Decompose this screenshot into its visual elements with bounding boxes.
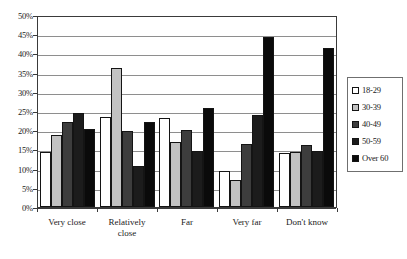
bar[interactable]	[241, 144, 252, 207]
bar-slot	[40, 17, 95, 207]
x-axis-category-labels: Very closeRelatively closeFarVery farDon…	[37, 213, 337, 257]
x-axis-separator-tick	[337, 208, 338, 212]
bar[interactable]	[312, 151, 323, 207]
y-axis-tick-label: 50%	[18, 12, 33, 21]
y-axis-tick-label: 45%	[18, 31, 33, 40]
legend-swatch-icon	[352, 138, 359, 145]
legend-label: 50-59	[362, 137, 381, 146]
bar-group	[98, 17, 158, 207]
y-axis-tick-label: 15%	[18, 146, 33, 155]
x-axis-separator-tick	[217, 208, 218, 212]
bar-slot	[100, 17, 155, 207]
bar[interactable]	[73, 113, 84, 207]
bar-group	[276, 17, 336, 207]
bar-slot	[159, 17, 214, 207]
bar[interactable]	[100, 117, 111, 207]
bar[interactable]	[51, 135, 62, 207]
legend-item[interactable]: 18-29	[352, 82, 399, 99]
bar[interactable]	[219, 171, 230, 207]
x-axis-separator-tick	[97, 208, 98, 212]
bar[interactable]	[122, 131, 133, 207]
legend-item[interactable]: Over 60	[352, 150, 399, 167]
bar[interactable]	[252, 115, 263, 207]
legend-swatch-icon	[352, 87, 359, 94]
x-axis-category-label: Don't know	[277, 213, 337, 257]
x-axis-separator-tick	[37, 208, 38, 212]
y-axis-tick-label: 20%	[18, 127, 33, 136]
y-axis-tick-label: 10%	[18, 165, 33, 174]
bar[interactable]	[301, 145, 312, 207]
x-axis-separator-tick	[157, 208, 158, 212]
x-axis-category-label: Very close	[37, 213, 97, 257]
bar-group	[38, 17, 98, 207]
legend-label: 18-29	[362, 86, 381, 95]
bar[interactable]	[62, 122, 73, 207]
y-axis-tick-label: 25%	[18, 108, 33, 117]
x-axis-category-label: Relatively close	[97, 213, 157, 257]
bar-group	[157, 17, 217, 207]
x-axis-tick-marks	[37, 208, 337, 212]
bar[interactable]	[323, 48, 334, 207]
bar[interactable]	[159, 118, 170, 207]
legend-label: Over 60	[362, 154, 388, 163]
legend-item[interactable]: 30-39	[352, 99, 399, 116]
bar-group	[217, 17, 277, 207]
bar[interactable]	[133, 166, 144, 207]
y-axis-tick-label: 35%	[18, 69, 33, 78]
legend-item[interactable]: 50-59	[352, 133, 399, 150]
bar-groups	[38, 17, 336, 207]
bar[interactable]	[181, 130, 192, 207]
bar[interactable]	[230, 180, 241, 207]
bar[interactable]	[144, 122, 155, 207]
bar-chart: 0%5%10%15%20%25%30%35%40%45%50% Very clo…	[0, 0, 407, 259]
legend-label: 30-39	[362, 103, 381, 112]
bar[interactable]	[111, 68, 122, 207]
bar-slot	[219, 17, 274, 207]
bar[interactable]	[192, 151, 203, 207]
x-axis-separator-tick	[277, 208, 278, 212]
legend-label: 40-49	[362, 120, 381, 129]
legend: 18-2930-3940-4950-59Over 60	[347, 77, 403, 172]
bar[interactable]	[170, 142, 181, 207]
legend-swatch-icon	[352, 104, 359, 111]
plot-area	[37, 16, 337, 208]
x-axis-category-label: Far	[157, 213, 217, 257]
bar[interactable]	[290, 152, 301, 207]
y-axis-tick-labels: 0%5%10%15%20%25%30%35%40%45%50%	[0, 16, 36, 208]
legend-swatch-icon	[352, 155, 359, 162]
bar[interactable]	[203, 108, 214, 207]
bar[interactable]	[84, 129, 95, 207]
y-axis-tick-label: 30%	[18, 89, 33, 98]
bar[interactable]	[263, 37, 274, 207]
legend-swatch-icon	[352, 121, 359, 128]
y-axis-tick-label: 40%	[18, 50, 33, 59]
bar-slot	[279, 17, 334, 207]
bar[interactable]	[279, 153, 290, 207]
x-axis-category-label: Very far	[217, 213, 277, 257]
legend-item[interactable]: 40-49	[352, 116, 399, 133]
bar[interactable]	[40, 152, 51, 207]
